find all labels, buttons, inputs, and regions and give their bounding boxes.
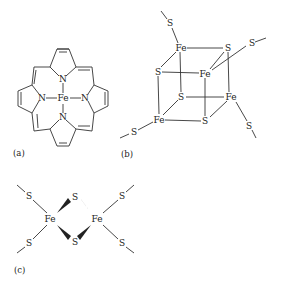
atom-s-3: S: [178, 92, 184, 102]
atom-s-lower-right: S: [119, 238, 125, 248]
atom-fe-1: Fe: [175, 43, 186, 53]
atom-fe-4: Fe: [153, 115, 164, 125]
atom-s-upper-right: S: [119, 191, 125, 201]
panel-b-cubane: S Fe S S S Fe S Fe Fe S S S (b): [120, 11, 266, 159]
atom-s-terminal-4: S: [246, 121, 252, 131]
atom-s-2: S: [155, 67, 161, 77]
atom-s-1: S: [225, 43, 231, 53]
atom-fe-2: Fe: [199, 69, 210, 79]
atom-s-bridge-bottom: S: [72, 237, 78, 247]
panel-a-caption: (a): [13, 148, 25, 158]
atom-s-terminal-2: S: [249, 38, 255, 48]
atom-n-left: N: [38, 93, 46, 103]
atom-fe-left: Fe: [44, 214, 55, 224]
cubane-bonds: [120, 11, 266, 138]
atom-s-4: S: [202, 116, 208, 126]
panel-b-caption: (b): [121, 149, 133, 159]
figure-canvas: Fe N N N N (a): [0, 0, 281, 282]
wedge-bonds: [57, 198, 91, 240]
atom-s-bridge-top: S: [72, 192, 78, 202]
atom-fe-3: Fe: [225, 92, 236, 102]
atom-n-right: N: [81, 93, 89, 103]
atom-s-terminal-1: S: [167, 18, 173, 28]
panel-a-porphyrin: Fe N N N N (a): [13, 49, 108, 158]
atom-fe-right: Fe: [91, 214, 102, 224]
atom-s-terminal-3: S: [131, 127, 137, 137]
atom-s-upper-left: S: [26, 191, 32, 201]
atom-n-top: N: [59, 74, 67, 84]
atom-fe: Fe: [57, 93, 68, 103]
panel-c-fe2s2: Fe Fe S S S S S S (c): [14, 185, 134, 275]
atom-s-lower-left: S: [26, 238, 32, 248]
panel-c-caption: (c): [14, 265, 25, 275]
atom-n-bottom: N: [59, 112, 67, 122]
